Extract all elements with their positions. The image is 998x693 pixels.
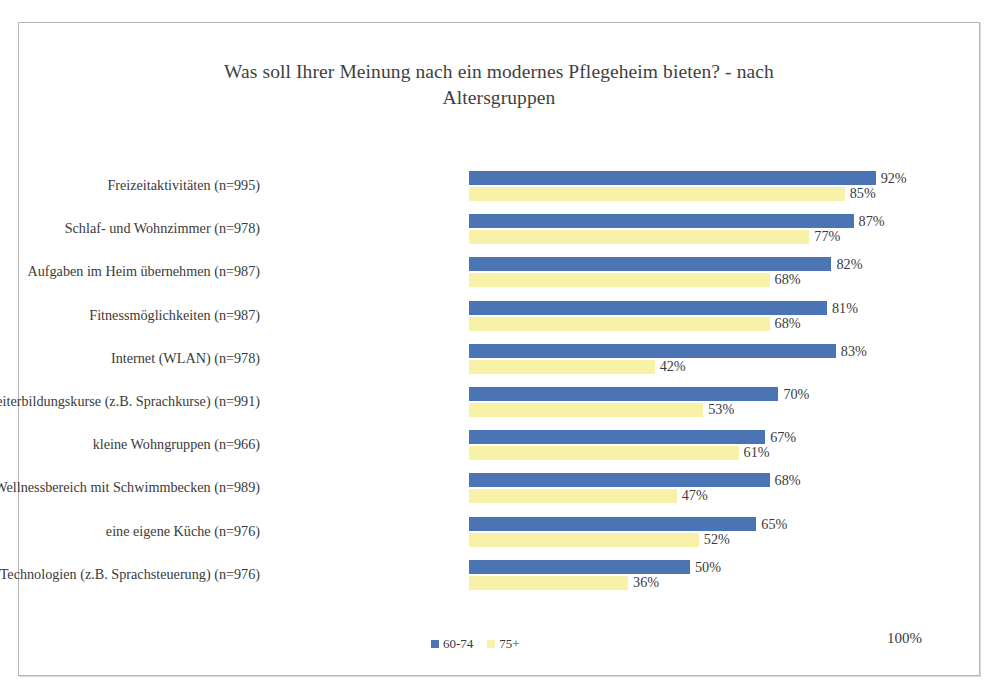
chart-legend: 60-7475+ [431,636,520,652]
bar-75- [469,532,699,547]
plot-area: Freizeitaktivitäten (n=995)92%85%Schlaf-… [19,171,979,611]
category-label: Weiterbildungskurse (z.B. Sprachkurse) (… [0,390,260,412]
bar-75- [469,316,770,331]
bar-value-label: 82% [831,253,862,275]
bar-group: eine eigene Küche (n=976)65%52% [19,517,979,547]
bar-60-74 [469,430,765,444]
bar-value-label: 87% [854,210,885,232]
bar-value-label: 47% [677,484,708,506]
category-label: Fitnessmöglichkeiten (n=987) [0,304,260,326]
legend-swatch-icon [487,640,495,648]
bar-75- [469,575,628,590]
bar-value-label: 36% [628,571,659,593]
bar-track: 83%42% [469,344,969,374]
legend-label: 60-74 [443,636,473,652]
legend-swatch-icon [431,640,439,648]
category-label: Wellnessbereich mit Schwimmbecken (n=989… [0,476,260,498]
legend-label: 75+ [499,636,519,652]
bar-60-74 [469,473,770,487]
bar-value-label: 77% [809,225,840,247]
bar-track: 92%85% [469,171,969,201]
bar-track: 81%68% [469,301,969,331]
bar-track: 70%53% [469,387,969,417]
chart-title-line-1: Was soll Ihrer Meinung nach ein modernes… [129,59,869,85]
bar-75- [469,402,703,417]
bar-track: 68%47% [469,473,969,503]
bar-value-label: 52% [699,528,730,550]
legend-item[interactable]: 60-74 [431,636,473,652]
bar-value-label: 68% [770,312,801,334]
bar-group: Fitnessmöglichkeiten (n=987)81%68% [19,301,979,331]
category-label: eine eigene Küche (n=976) [0,520,260,542]
category-label: Freizeitaktivitäten (n=995) [0,174,260,196]
bar-60-74 [469,344,836,358]
bar-group: Aufgaben im Heim übernehmen (n=987)82%68… [19,257,979,287]
bar-75- [469,359,655,374]
bar-value-label: 53% [703,398,734,420]
bar-value-label: 68% [770,268,801,290]
bar-75- [469,445,739,460]
bar-60-74 [469,214,854,228]
bar-value-label: 70% [778,383,809,405]
bar-value-label: 83% [836,340,867,362]
bar-value-label: 65% [756,513,787,535]
category-label: Schlaf- und Wohnzimmer (n=978) [0,217,260,239]
bar-track: 87%77% [469,214,969,244]
axis-max-label: 100% [887,630,922,647]
bar-group: Freizeitaktivitäten (n=995)92%85% [19,171,979,201]
bar-60-74 [469,171,876,185]
bar-group: Weiterbildungskurse (z.B. Sprachkurse) (… [19,387,979,417]
bar-track: 50%36% [469,560,969,590]
bar-value-label: 85% [845,182,876,204]
category-label: Internet (WLAN) (n=978) [0,347,260,369]
bar-value-label: 50% [690,556,721,578]
legend-item[interactable]: 75+ [487,636,519,652]
bar-group: Schlaf- und Wohnzimmer (n=978)87%77% [19,214,979,244]
bar-group: Internet (WLAN) (n=978)83%42% [19,344,979,374]
category-label: neueste Technologien (z.B. Sprachsteueru… [0,563,260,585]
bar-75- [469,272,770,287]
bar-track: 67%61% [469,430,969,460]
bar-value-label: 61% [739,441,770,463]
bar-group: kleine Wohngruppen (n=966)67%61% [19,430,979,460]
chart-frame: Was soll Ihrer Meinung nach ein modernes… [18,22,980,676]
chart-title-line-2: Altersgruppen [129,85,869,111]
bar-value-label: 68% [770,469,801,491]
category-label: Aufgaben im Heim übernehmen (n=987) [0,260,260,282]
bar-track: 65%52% [469,517,969,547]
chart-title: Was soll Ihrer Meinung nach ein modernes… [129,59,869,111]
bar-value-label: 92% [876,167,907,189]
bar-75- [469,488,677,503]
bar-group: neueste Technologien (z.B. Sprachsteueru… [19,560,979,590]
bar-track: 82%68% [469,257,969,287]
bar-value-label: 42% [655,355,686,377]
bar-75- [469,229,809,244]
category-label: kleine Wohngruppen (n=966) [0,433,260,455]
bar-group: Wellnessbereich mit Schwimmbecken (n=989… [19,473,979,503]
bar-75- [469,186,845,201]
bar-value-label: 81% [827,297,858,319]
